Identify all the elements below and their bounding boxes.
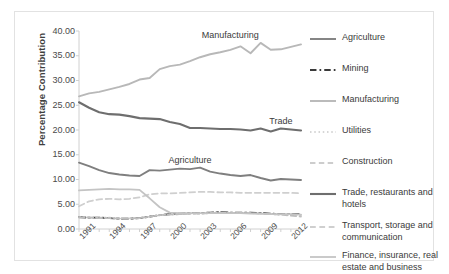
legend-swatch-icon (310, 158, 336, 168)
legend-swatch-icon (310, 65, 336, 75)
legend-swatch-icon (310, 252, 336, 262)
y-tick-label: 5.00 (35, 200, 75, 209)
plot-area (79, 31, 301, 229)
legend-label: Utilities (342, 125, 371, 137)
series-annotation: Agriculture (168, 155, 211, 165)
legend-item[interactable]: Mining (310, 63, 449, 75)
legend-item[interactable]: Utilities (310, 125, 449, 137)
legend-label: Construction (342, 156, 393, 168)
series-line (79, 163, 301, 181)
legend-label: Agriculture (342, 32, 385, 44)
legend-item[interactable]: Manufacturing (310, 94, 449, 106)
chart-figure: Percentage Contribution 0.005.0010.0015.… (0, 0, 449, 274)
series-annotation: Trade (269, 116, 292, 126)
legend-swatch-icon (310, 96, 336, 106)
legend-label: Transport, storage and communication (342, 220, 449, 243)
legend-item[interactable]: Finance, insurance, real estate and busi… (310, 250, 449, 274)
y-tick-label: 20.00 (35, 126, 75, 135)
legend-label: Mining (342, 63, 369, 75)
series-line (79, 43, 301, 96)
legend-swatch-icon (310, 127, 336, 137)
legend-item[interactable]: Transport, storage and communication (310, 220, 449, 243)
y-tick-label: 10.00 (35, 175, 75, 184)
legend-label: Trade, restaurants and hotels (342, 187, 449, 210)
legend-swatch-icon (310, 222, 336, 232)
legend-label: Manufacturing (342, 94, 399, 106)
y-tick-label: 0.00 (35, 225, 75, 234)
series-line (79, 102, 301, 131)
legend-swatch-icon (310, 189, 336, 199)
series-annotation: Manufacturing (202, 30, 259, 40)
legend-item[interactable]: Agriculture (310, 32, 449, 44)
legend-label: Finance, insurance, real estate and busi… (342, 250, 449, 274)
chart-legend: AgricultureMiningManufacturingUtilitiesC… (310, 26, 449, 258)
y-tick-label: 15.00 (35, 150, 75, 159)
y-tick-label: 25.00 (35, 101, 75, 110)
y-tick-label: 30.00 (35, 76, 75, 85)
y-tick-label: 35.00 (35, 51, 75, 60)
legend-item[interactable]: Trade, restaurants and hotels (310, 187, 449, 210)
legend-item[interactable]: Construction (310, 156, 449, 168)
series-line (79, 192, 301, 206)
chart-frame: Percentage Contribution 0.005.0010.0015.… (14, 11, 434, 261)
legend-swatch-icon (310, 34, 336, 44)
series-canvas (79, 31, 301, 229)
y-axis-ticks: 0.005.0010.0015.0020.0025.0030.0035.0040… (33, 12, 75, 262)
y-tick-label: 40.00 (35, 27, 75, 36)
x-axis-ticks: 19911994199720002003200620092012 (79, 231, 309, 271)
